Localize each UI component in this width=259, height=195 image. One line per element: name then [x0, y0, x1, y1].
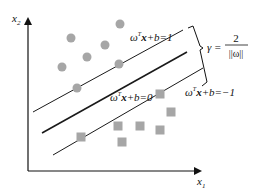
- square-point: [167, 108, 176, 117]
- positive-hyperplane-label: ωTx+b=1: [130, 31, 172, 43]
- circle-point: [116, 20, 125, 29]
- square-point: [77, 133, 86, 142]
- decision-hyperplane-label: ωTx+b=0: [110, 91, 153, 103]
- margin-gamma: γ =: [207, 41, 222, 53]
- circle-point: [73, 84, 82, 93]
- positive-class-points: [58, 20, 125, 93]
- margin-brace: [188, 26, 207, 86]
- square-point: [156, 90, 165, 99]
- x-axis-label: x1: [196, 175, 205, 190]
- margin-numerator: 2: [233, 32, 239, 44]
- negative-hyperplane-label: ωTx+b=−1: [185, 86, 235, 98]
- circle-point: [115, 60, 124, 69]
- circle-point: [83, 53, 92, 62]
- square-point: [114, 122, 123, 131]
- svm-diagram: x2 x1 ωTx+b=1 ωTx+b=0 ωTx+b=−1 γ = 2 ||ω…: [0, 0, 259, 195]
- y-axis-label: x2: [11, 12, 21, 27]
- negative-margin-line: [53, 68, 203, 155]
- circle-point: [101, 41, 110, 50]
- circle-point: [58, 63, 67, 72]
- circle-point: [67, 34, 76, 43]
- square-point: [156, 126, 165, 135]
- margin-denominator: ||ω||: [229, 48, 244, 59]
- square-point: [136, 122, 145, 131]
- square-point: [118, 138, 127, 147]
